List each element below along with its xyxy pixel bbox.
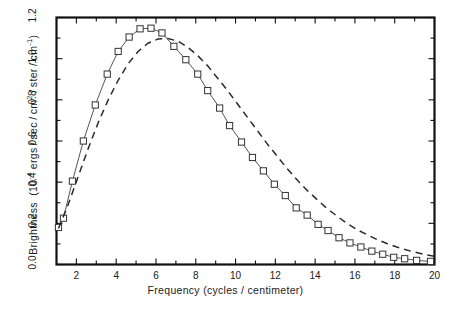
data-series-layer	[55, 25, 434, 264]
plot-frame	[57, 18, 435, 265]
figure: Brightness (10-4 ergs / sec / cm2 / ster…	[0, 0, 451, 312]
series-measured-spectrum	[55, 25, 433, 264]
series-blackbody-fit	[58, 38, 434, 256]
plot-canvas	[0, 0, 451, 312]
axis-ticks	[57, 18, 435, 265]
